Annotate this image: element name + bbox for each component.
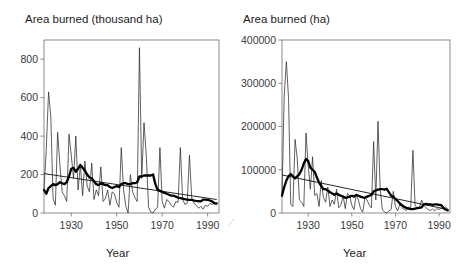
y-tick-label: 0 <box>270 207 276 219</box>
y-tick-label: 400000 <box>241 34 276 46</box>
x-axis-title-left: Year <box>106 246 129 260</box>
chart-canvas-left: 02004006008001930195019701990 <box>0 0 235 273</box>
x-tick-label: 1990 <box>427 219 451 231</box>
y-tick-label: 100000 <box>241 164 276 176</box>
series-annual-line <box>44 48 217 213</box>
x-tick-label: 1970 <box>151 219 175 231</box>
y-tick-label: 300000 <box>241 77 276 89</box>
series-annual-line <box>282 62 448 213</box>
x-tick-label: 1950 <box>105 219 129 231</box>
y-tick-label: 200000 <box>241 120 276 132</box>
plot-frame <box>282 40 450 213</box>
x-axis-title-right: Year <box>343 246 366 260</box>
x-tick-label: 1970 <box>384 219 408 231</box>
y-tick-label: 0 <box>32 207 38 219</box>
y-tick-label: 200 <box>20 168 38 180</box>
y-tick-label: 600 <box>20 91 38 103</box>
chart-canvas-right: 0100000200000300000400000193019501970199… <box>235 0 471 273</box>
y-tick-label: 800 <box>20 53 38 65</box>
x-tick-label: 1990 <box>196 219 220 231</box>
scan-artifact-mark <box>228 219 234 226</box>
chart-panel-left: Area burned (thousand ha) 02004006008001… <box>0 0 235 273</box>
y-tick-label: 400 <box>20 130 38 142</box>
x-tick-label: 1950 <box>340 219 364 231</box>
x-tick-label: 1930 <box>297 219 321 231</box>
chart-panel-right: Area burned (ha) 01000002000003000004000… <box>235 0 471 273</box>
x-tick-label: 1930 <box>60 219 84 231</box>
